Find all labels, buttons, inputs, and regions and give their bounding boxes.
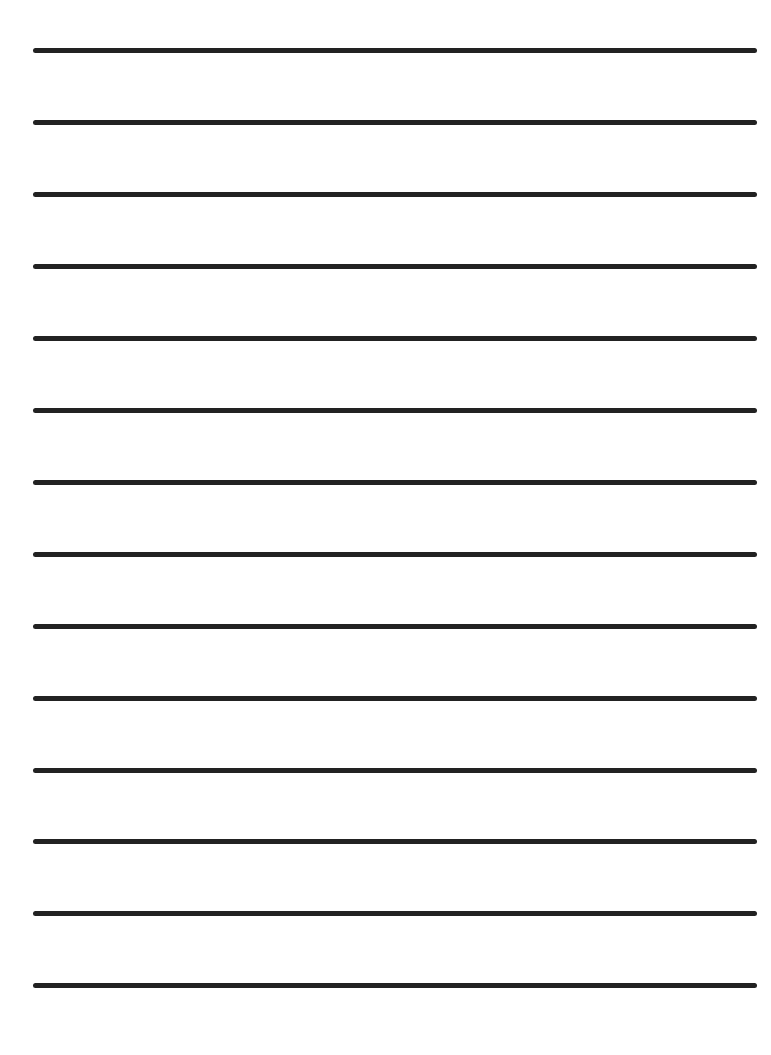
ruled-line: [33, 983, 757, 988]
ruled-line: [33, 48, 757, 53]
ruled-line: [33, 696, 757, 701]
ruled-line: [33, 480, 757, 485]
ruled-line: [33, 552, 757, 557]
ruled-line: [33, 264, 757, 269]
ruled-line: [33, 120, 757, 125]
ruled-line: [33, 911, 757, 916]
ruled-line: [33, 768, 757, 773]
ruled-line: [33, 408, 757, 413]
ruled-line: [33, 624, 757, 629]
ruled-line: [33, 192, 757, 197]
ruled-line: [33, 336, 757, 341]
ruled-line: [33, 839, 757, 844]
